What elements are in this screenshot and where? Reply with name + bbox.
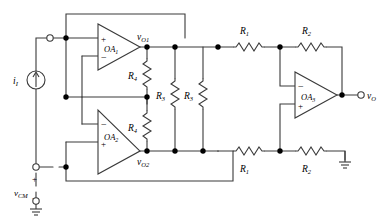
wire-top-feedback bbox=[66, 14, 185, 38]
voltage-source-vCM: + vCM − bbox=[14, 164, 39, 204]
wire-r2top-to-out bbox=[327, 47, 342, 95]
resistor-R4a-label: R4 bbox=[127, 71, 138, 82]
vcm-label: vCM bbox=[14, 188, 28, 199]
opamp-OA3-plus-sign: + bbox=[298, 101, 303, 111]
resistor-R3b: R3 bbox=[183, 78, 207, 110]
resistor-R3b-label: R3 bbox=[183, 91, 194, 102]
vcm-terminal-minus-circle bbox=[33, 198, 39, 204]
opamp-OA1-plus-sign: + bbox=[101, 34, 106, 44]
wire-oa3-minus-feed bbox=[280, 47, 295, 86]
input-terminal-circle[interactable] bbox=[47, 35, 53, 41]
opamp-OA2: − + OA2 bbox=[98, 110, 140, 174]
node-r3a-bottom bbox=[172, 148, 177, 153]
resistor-R4a: R4 bbox=[127, 58, 151, 90]
resistor-R2-bottom-label: R2 bbox=[301, 164, 312, 175]
label-vO2: vO2 bbox=[137, 157, 150, 168]
node-r3b-bottom bbox=[200, 148, 205, 153]
node-top-rail bbox=[215, 44, 220, 49]
wire-input-terminal-to-source bbox=[36, 38, 47, 71]
node-vO2 bbox=[144, 148, 149, 153]
wire-vcm-to-oa2-plus bbox=[59, 142, 66, 167]
resistor-R3a-label: R3 bbox=[155, 91, 166, 102]
label-vO1: vO1 bbox=[137, 32, 149, 43]
circuit-schematic: R4 R4 R3 R3 R1 R2 R1 R2 + − OA1 − + OA2 bbox=[0, 0, 380, 221]
node-input bbox=[63, 35, 68, 40]
circuit-diagram-canvas: R4 R4 R3 R3 R1 R2 R1 R2 + − OA1 − + OA2 bbox=[0, 0, 380, 221]
label-vO: vO bbox=[367, 91, 376, 102]
wire-r2bot-to-gnd bbox=[327, 151, 345, 160]
resistor-R2-top: R2 bbox=[295, 26, 327, 51]
resistor-R1-top-label: R1 bbox=[239, 26, 249, 37]
resistor-R2-top-label: R2 bbox=[301, 26, 312, 37]
node-r4-midtap-left bbox=[63, 94, 68, 99]
opamp-OA1: + − OA1 bbox=[98, 24, 140, 70]
opamp-OA2-minus-sign: − bbox=[101, 119, 107, 130]
resistor-R1-top: R1 bbox=[233, 26, 265, 51]
resistor-R3a: R3 bbox=[155, 78, 179, 110]
node-vO1 bbox=[144, 44, 149, 49]
node-vcm bbox=[63, 164, 68, 169]
resistor-R1-bottom: R1 bbox=[233, 147, 265, 175]
resistor-R4b: R4 bbox=[127, 110, 151, 142]
opamp-OA3-minus-sign: − bbox=[298, 81, 304, 92]
node-r4-midtap bbox=[144, 94, 149, 99]
resistor-R4b-label: R4 bbox=[127, 123, 138, 134]
output-terminal-circle[interactable] bbox=[358, 92, 364, 98]
current-source-iI: iI bbox=[13, 71, 45, 89]
wire-bottom-feedback bbox=[66, 151, 233, 181]
wire-oa3-plus-feed bbox=[280, 104, 295, 151]
vcm-terminal-plus-circle bbox=[33, 164, 39, 170]
resistor-R2-bottom: R2 bbox=[295, 147, 327, 175]
node-r3a-top bbox=[172, 44, 177, 49]
ground-vcm bbox=[30, 204, 42, 215]
node-output bbox=[339, 92, 344, 97]
resistor-R1-bottom-label: R1 bbox=[239, 164, 249, 175]
vcm-plus-sign: + bbox=[32, 174, 37, 184]
node-oa3-minus bbox=[277, 44, 282, 49]
node-oa3-plus bbox=[277, 148, 282, 153]
opamp-OA3: − + OA3 bbox=[295, 72, 337, 118]
ground-r2-bottom bbox=[339, 151, 351, 168]
current-source-label: iI bbox=[13, 76, 19, 87]
